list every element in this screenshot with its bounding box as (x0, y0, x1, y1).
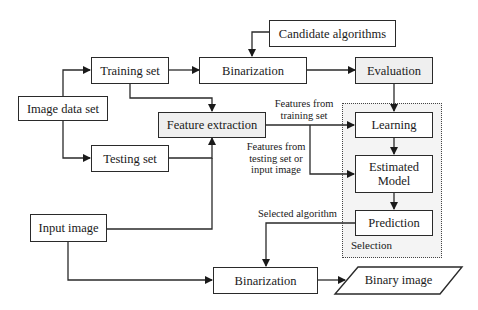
node-learning: Learning (355, 112, 433, 138)
node-testing-set: Testing set (91, 145, 169, 172)
node-candidate-algorithms: Candidate algorithms (269, 20, 396, 47)
node-binary-image: Binary image (345, 267, 452, 294)
node-prediction: Prediction (355, 210, 433, 236)
node-feature-extraction: Feature extraction (158, 112, 266, 138)
node-binarization-top: Binarization (199, 57, 307, 84)
node-evaluation: Evaluation (355, 57, 433, 84)
label-selected-algorithm: Selected algorithm (258, 208, 337, 220)
node-estimated-model: Estimated Model (355, 155, 433, 193)
estimated-model-text: Estimated Model (369, 160, 419, 188)
node-image-data-set: Image data set (18, 96, 108, 121)
label-features-testing: Features from testing set or input image (240, 141, 312, 176)
node-binarization-bottom: Binarization (213, 267, 318, 294)
label-features-training: Features from training set (268, 98, 340, 121)
node-input-image: Input image (30, 214, 107, 242)
node-training-set: Training set (91, 57, 169, 84)
